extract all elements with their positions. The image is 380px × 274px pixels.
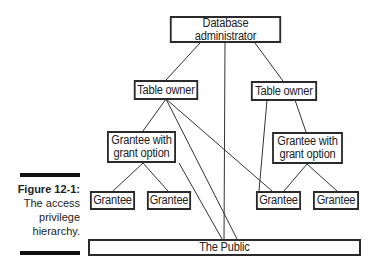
- node-label: Grantee: [93, 194, 132, 207]
- edge-grant-right-grantee-3: [284, 164, 307, 191]
- node-label: Database administrator: [172, 17, 280, 43]
- node-database-administrator: Database administrator: [170, 16, 281, 43]
- node-label: Grantee: [259, 194, 298, 207]
- node-grantee-1: Grantee: [90, 191, 135, 210]
- edge-grant-left-grantee-2: [143, 163, 168, 191]
- figure-caption: Figure 12-1: The access privilege hierar…: [14, 182, 80, 238]
- node-grantee-3: Grantee: [256, 191, 301, 210]
- caption-line: privilege: [14, 210, 80, 224]
- edge-grant-right-grantee-4: [307, 164, 337, 191]
- edge-dba-public: [224, 43, 225, 239]
- caption-line: hierarchy.: [14, 224, 80, 238]
- node-label: Table owner: [137, 84, 195, 97]
- node-label: Table owner: [255, 85, 313, 98]
- node-grantee-4: Grantee: [313, 191, 359, 210]
- node-label: The Public: [199, 241, 249, 254]
- node-table-owner-right: Table owner: [251, 81, 317, 101]
- node-table-owner-left: Table owner: [134, 80, 198, 100]
- caption-top-rule: [20, 173, 80, 177]
- edge-owner-right-grantee-3: [259, 100, 267, 191]
- node-grantee-with-grant-option-left: Grantee with grant option: [107, 131, 176, 163]
- figure-number: Figure 12-1:: [14, 182, 80, 196]
- edge-grant-left-grantee-1: [113, 163, 143, 191]
- node-label-line2: grant option: [113, 147, 169, 160]
- node-the-public: The Public: [88, 239, 361, 256]
- edge-dba-owner-right: [255, 43, 283, 81]
- edge-owner-left-grantee-3: [166, 99, 272, 191]
- edge-owner-left-grant-left: [143, 99, 166, 131]
- caption-bottom-rule: [20, 251, 80, 255]
- node-label: Grantee: [150, 194, 189, 207]
- node-label-line2: grant option: [279, 148, 335, 161]
- node-label: Grantee: [317, 194, 356, 207]
- node-grantee-2: Grantee: [147, 191, 191, 210]
- caption-line: The access: [14, 196, 80, 210]
- edge-owner-right-grant-right: [295, 100, 306, 132]
- node-grantee-with-grant-option-right: Grantee with grant option: [272, 132, 343, 164]
- edge-owner-left-public: [166, 99, 237, 239]
- edge-dba-owner-left: [166, 43, 200, 80]
